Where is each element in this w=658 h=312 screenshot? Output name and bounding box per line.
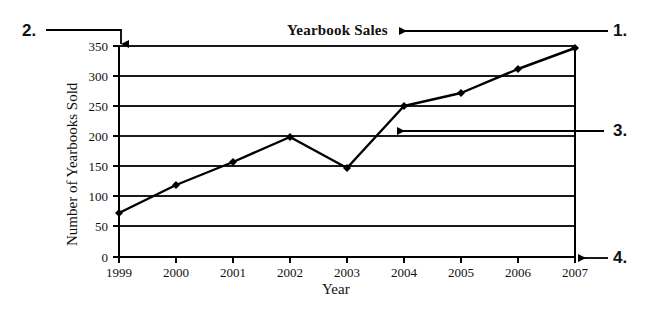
callout-leaders [46, 30, 608, 258]
y-tick-label-50: 50 [72, 219, 108, 235]
data-point-2001 [229, 158, 237, 166]
x-axis-title: Year [322, 281, 350, 298]
x-tick-label-2007: 2007 [551, 265, 599, 281]
x-tick-label-1999: 1999 [95, 265, 143, 281]
x-tick-label-2003: 2003 [323, 265, 371, 281]
chart-page: Yearbook Sales Number of Yearbooks Sold … [0, 0, 658, 312]
chart-title: Yearbook Sales [287, 22, 388, 39]
y-tick-label-250: 250 [72, 99, 108, 115]
callout-label-3: 3. [613, 121, 627, 141]
y-tick-label-0: 0 [72, 250, 108, 266]
y-tick-label-300: 300 [72, 69, 108, 85]
data-point-2006 [514, 65, 522, 73]
x-tick-label-2005: 2005 [437, 265, 485, 281]
data-point-1999 [115, 209, 123, 217]
y-tick-label-150: 150 [72, 159, 108, 175]
data-point-2005 [457, 89, 465, 97]
x-tick-label-2002: 2002 [266, 265, 314, 281]
y-tick-label-200: 200 [72, 129, 108, 145]
x-tick-label-2004: 2004 [380, 265, 428, 281]
callout-label-2: 2. [22, 21, 36, 41]
x-tick-label-2001: 2001 [209, 265, 257, 281]
callout-label-4: 4. [613, 248, 627, 268]
x-tick-label-2000: 2000 [152, 265, 200, 281]
x-tick-label-2006: 2006 [494, 265, 542, 281]
y-tick-label-350: 350 [72, 39, 108, 55]
data-point-2000 [172, 181, 180, 189]
y-tick-label-100: 100 [72, 189, 108, 205]
callout-label-1: 1. [613, 21, 627, 41]
